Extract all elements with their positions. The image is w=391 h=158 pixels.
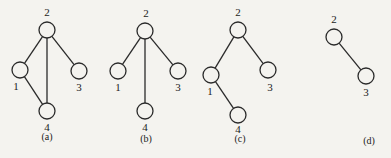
node-label-3: 3 xyxy=(267,81,273,93)
node-2 xyxy=(326,29,342,45)
node-4 xyxy=(230,107,246,123)
edge-2-1 xyxy=(122,38,140,65)
node-4 xyxy=(137,103,153,119)
node-label-3: 3 xyxy=(76,81,82,93)
caption-c: (c) xyxy=(234,133,245,145)
edge-2-3 xyxy=(243,36,263,63)
edge-1-4 xyxy=(24,77,42,105)
node-label-2: 2 xyxy=(44,6,50,18)
subfigure-d: 23(d) xyxy=(326,13,375,147)
node-label-1: 1 xyxy=(115,81,121,93)
node-label-1: 1 xyxy=(207,85,213,97)
node-3 xyxy=(71,63,87,79)
node-2 xyxy=(230,22,246,38)
node-1 xyxy=(12,62,28,78)
subfigure-b: 2134(b) xyxy=(110,7,186,145)
node-label-2: 2 xyxy=(143,7,149,19)
node-label-4: 4 xyxy=(142,121,148,133)
caption-a: (a) xyxy=(41,131,52,143)
subfigure-a: 2134(a) xyxy=(12,6,87,143)
edge-2-1 xyxy=(215,37,234,68)
subfigure-c: 2134(c) xyxy=(203,6,276,145)
node-3 xyxy=(358,68,374,84)
node-2 xyxy=(39,22,55,38)
node-3 xyxy=(260,62,276,78)
node-1 xyxy=(110,63,126,79)
edge-2-3 xyxy=(52,36,74,64)
node-label-3: 3 xyxy=(363,86,369,98)
node-1 xyxy=(203,67,219,83)
node-label-1: 1 xyxy=(13,80,19,92)
graph-diagram: 2134(a)2134(b)2134(c)23(d) xyxy=(0,0,391,158)
node-3 xyxy=(170,63,186,79)
node-2 xyxy=(137,23,153,39)
node-label-2: 2 xyxy=(331,13,337,25)
node-label-2: 2 xyxy=(235,6,241,18)
caption-d: (d) xyxy=(363,135,375,147)
edge-1-4 xyxy=(215,82,233,109)
edge-2-3 xyxy=(150,37,173,65)
node-4 xyxy=(39,103,55,119)
node-label-3: 3 xyxy=(175,81,181,93)
edge-2-3 xyxy=(339,43,361,70)
edge-2-1 xyxy=(24,37,42,64)
caption-b: (b) xyxy=(140,133,152,145)
